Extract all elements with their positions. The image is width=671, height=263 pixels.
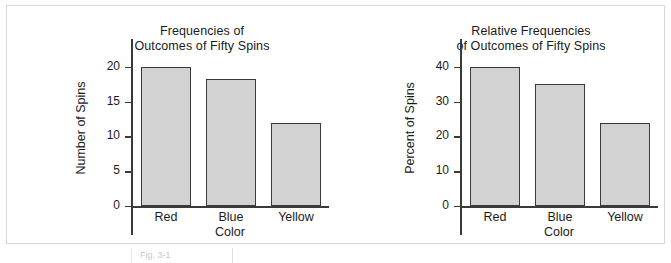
x-tick-label-blue: Blue [196, 210, 266, 225]
x-axis-title: Color [460, 225, 658, 240]
x-tick-label-yellow: Yellow [261, 210, 331, 225]
figure-caption: Fig. 3-1 [140, 250, 230, 261]
x-tick-label-yellow: Yellow [590, 210, 660, 225]
bar-red[interactable] [470, 67, 520, 206]
y-tick-label-1: 5 [113, 163, 120, 177]
chart-title-line-1: Frequencies of [67, 24, 337, 39]
y-axis-title-text: Number of Spins [73, 81, 89, 174]
y-tick-label-0: 0 [442, 198, 449, 212]
x-axis-line [131, 206, 329, 208]
bar-blue[interactable] [206, 79, 256, 206]
chart-relative-frequencies: Relative Frequencies of Outcomes of Fift… [356, 6, 671, 245]
chart-title-line-1: Relative Frequencies [396, 24, 666, 39]
y-tick-label-0: 0 [113, 198, 120, 212]
bar-red[interactable] [141, 67, 191, 206]
y-tick-label-4: 40 [436, 59, 449, 73]
y-tick-label-2: 10 [107, 128, 120, 142]
y-tick-label-2: 20 [436, 128, 449, 142]
bar-yellow[interactable] [600, 123, 650, 207]
figure-caption-strip: Fig. 3-1 [0, 248, 671, 263]
bar-yellow[interactable] [271, 123, 321, 207]
y-tick-label-3: 30 [436, 94, 449, 108]
figure-frame: Frequencies of Outcomes of Fifty Spins N… [6, 5, 665, 244]
chart-frequencies: Frequencies of Outcomes of Fifty Spins N… [27, 6, 356, 245]
x-axis-line [460, 206, 658, 208]
y-tick-label-1: 10 [436, 163, 449, 177]
x-axis-title: Color [131, 225, 329, 240]
caption-divider-left [0, 248, 132, 263]
x-tick-label-red: Red [460, 210, 530, 225]
y-axis-title: Number of Spins [73, 58, 89, 198]
caption-divider-right [232, 248, 233, 263]
x-tick-label-blue: Blue [525, 210, 595, 225]
x-tick-label-red: Red [131, 210, 201, 225]
charts-row: Frequencies of Outcomes of Fifty Spins N… [7, 6, 666, 245]
y-axis-title-text: Percent of Spins [402, 82, 418, 174]
y-axis-title: Percent of Spins [402, 58, 418, 198]
plot-area [131, 46, 329, 206]
y-tick-0: 0 [125, 206, 132, 207]
y-tick-label-4: 20 [107, 59, 120, 73]
plot-area [460, 46, 658, 206]
bar-blue[interactable] [535, 84, 585, 206]
y-tick-0: 0 [454, 206, 461, 207]
y-tick-label-3: 15 [107, 94, 120, 108]
